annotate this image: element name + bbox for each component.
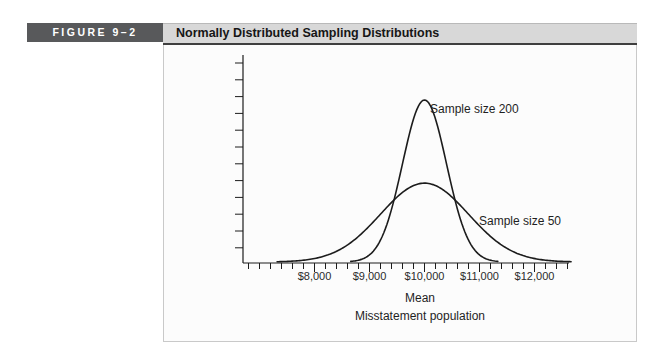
figure-number-label: FIGURE 9–2 xyxy=(27,23,163,42)
curve-sample-size-200 xyxy=(351,100,498,261)
figure-9-2: FIGURE 9–2 Normally Distributed Sampling… xyxy=(0,0,661,358)
chart-panel: Sample size 200 Sample size 50 $8,000$9,… xyxy=(163,45,637,342)
figure-title: Normally Distributed Sampling Distributi… xyxy=(163,24,637,43)
curve-label-sample-50: Sample size 50 xyxy=(479,214,561,228)
curve-label-sample-200: Sample size 200 xyxy=(430,102,519,116)
figure-title-bar: Normally Distributed Sampling Distributi… xyxy=(163,23,637,45)
x-tick-label: $12,000 xyxy=(495,270,575,282)
x-axis-caption-population: Misstatement population xyxy=(300,309,540,323)
x-axis-caption-mean: Mean xyxy=(300,291,540,305)
